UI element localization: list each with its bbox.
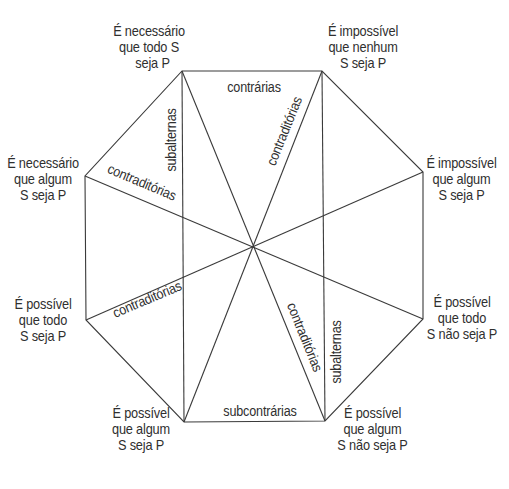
- label-line: É impossível: [420, 155, 504, 171]
- label-line: que algum: [2, 171, 85, 187]
- vertex-label-bottom-left: É possível que algum S seja P: [105, 405, 177, 453]
- label-line: S não seja P: [326, 437, 418, 453]
- label-line: que algum: [420, 171, 504, 187]
- label-line: É possível: [418, 294, 506, 310]
- label-line: que algum: [326, 421, 418, 437]
- label-line: que todo: [7, 312, 79, 328]
- label-line: S seja P: [315, 55, 412, 71]
- relation-label-subalternas-right: subalternas: [329, 316, 343, 388]
- label-line: S seja P: [7, 328, 79, 344]
- label-line: que todo S: [101, 39, 198, 55]
- label-line: que nenhum: [315, 39, 412, 55]
- vertex-label-left-upper: É necessário que algum S seja P: [2, 155, 85, 203]
- vertex-label-right-upper: É impossível que algum S seja P: [420, 155, 504, 203]
- label-line: É impossível: [315, 23, 412, 39]
- label-line: É necessário: [2, 155, 85, 171]
- label-line: S seja P: [2, 187, 85, 203]
- vertex-label-bottom-right: É possível que algum S não seja P: [326, 405, 418, 453]
- label-line: que todo: [418, 310, 506, 326]
- relation-label-subcontrarias: subcontrárias: [215, 404, 305, 418]
- label-line: É possível: [105, 405, 177, 421]
- vertex-label-right-lower: É possível que todo S não seja P: [418, 294, 506, 342]
- label-line: que algum: [105, 421, 177, 437]
- label-line: seja P: [101, 55, 198, 71]
- vertex-label-left-lower: É possível que todo S seja P: [7, 296, 79, 344]
- label-line: S seja P: [420, 187, 504, 203]
- vertex-label-top-right: É impossível que nenhum S seja P: [315, 23, 412, 71]
- left-vertical-line: [182, 71, 184, 422]
- relation-label-contrarias: contrárias: [218, 80, 290, 94]
- label-line: É necessário: [101, 23, 198, 39]
- label-line: É possível: [326, 405, 418, 421]
- vertex-label-top-left: É necessário que todo S seja P: [101, 23, 198, 71]
- label-line: S não seja P: [418, 326, 506, 342]
- label-line: S seja P: [105, 437, 177, 453]
- relation-label-subalternas-left: subalternas: [164, 104, 178, 176]
- label-line: É possível: [7, 296, 79, 312]
